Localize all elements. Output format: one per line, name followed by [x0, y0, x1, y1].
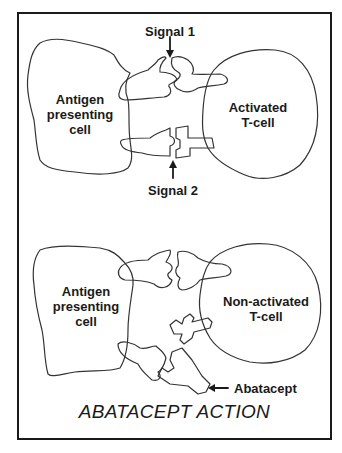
signal-2-label: Signal 2	[140, 183, 206, 198]
b7-molecule-top	[121, 128, 175, 156]
apc-label-top: Antigen presenting cell	[40, 92, 120, 137]
signal-1-label: Signal 1	[140, 24, 200, 39]
mhc-molecule-bottom	[118, 250, 172, 287]
t-cell-label-top: Activated T-cell	[218, 100, 298, 130]
t-cell-label-bottom: Non-activated T-cell	[218, 294, 314, 324]
cd28-molecule-bottom	[170, 314, 212, 344]
abatacept-molecule	[158, 348, 210, 394]
abatacept-label: Abatacept	[234, 381, 304, 396]
apc-label-bottom: Antigen presenting cell	[48, 284, 124, 329]
cd28-molecule-top	[176, 126, 214, 158]
tcr-molecule-bottom	[176, 251, 231, 290]
tcr-molecule-top	[171, 57, 227, 92]
diagram-title: ABATACEPT ACTION	[17, 401, 332, 423]
